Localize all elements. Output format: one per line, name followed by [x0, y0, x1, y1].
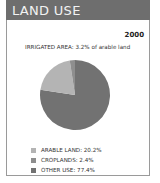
legend-item-arable-land: ARABLE LAND: 20.2%	[31, 145, 102, 155]
legend-item-other-use: OTHER USE: 77.4%	[31, 165, 102, 175]
pie-slice-arable-land	[40, 60, 75, 95]
legend-swatch	[31, 148, 36, 153]
legend-label: ARABLE LAND: 20.2%	[41, 147, 102, 153]
legend-item-croplands: CROPLANDS: 2.4%	[31, 155, 102, 165]
legend-swatch	[31, 168, 36, 173]
panel-title: LAND USE	[6, 0, 150, 20]
chart-legend: ARABLE LAND: 20.2%CROPLANDS: 2.4%OTHER U…	[31, 145, 102, 175]
legend-label: CROPLANDS: 2.4%	[41, 157, 94, 163]
land-use-pie-chart	[38, 58, 112, 132]
irrigated-area-subtitle: IRRIGATED AREA: 3.2% of arable land	[25, 44, 130, 50]
year-label: 2000	[125, 31, 144, 39]
legend-label: OTHER USE: 77.4%	[41, 167, 95, 173]
legend-swatch	[31, 158, 36, 163]
